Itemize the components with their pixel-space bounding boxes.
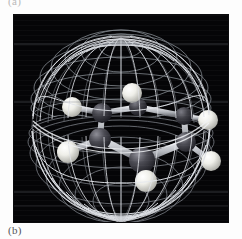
rendered-image-plate (14, 15, 228, 222)
scan-band (14, 43, 228, 45)
figure-root: (a) (0, 0, 242, 239)
panel-label-b: (b) (8, 224, 22, 236)
scan-band (14, 101, 228, 103)
scan-band (14, 191, 228, 193)
scan-band (14, 205, 228, 207)
panel-label-a: (a) (8, 0, 21, 7)
